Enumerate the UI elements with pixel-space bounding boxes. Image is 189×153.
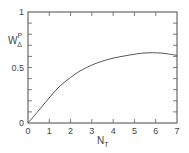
y-tick-label: 1 bbox=[19, 7, 24, 17]
ticks bbox=[28, 12, 177, 123]
x-tick-label: 2 bbox=[68, 126, 73, 136]
chart: 0123456700.51 WPΔ NT bbox=[0, 0, 189, 153]
x-axis-label-main: N bbox=[97, 135, 104, 146]
x-tick-label: 4 bbox=[111, 126, 116, 136]
x-tick-label: 7 bbox=[174, 126, 179, 136]
tick-labels: 0123456700.51 bbox=[11, 7, 179, 136]
y-tick-label: 0 bbox=[19, 118, 24, 128]
x-tick-label: 5 bbox=[132, 126, 137, 136]
series-curve bbox=[28, 53, 177, 123]
plot-frame bbox=[28, 12, 177, 123]
x-tick-label: 6 bbox=[153, 126, 158, 136]
x-tick-label: 0 bbox=[25, 126, 30, 136]
x-axis-label-sub: T bbox=[104, 141, 109, 148]
x-tick-label: 3 bbox=[89, 126, 94, 136]
x-axis-label: NT bbox=[97, 135, 109, 148]
y-tick-label: 0.5 bbox=[11, 63, 24, 73]
y-axis-label-sub: Δ bbox=[17, 41, 22, 48]
x-tick-label: 1 bbox=[47, 126, 52, 136]
y-axis-label-sup: P bbox=[17, 32, 22, 39]
y-axis-label: WPΔ bbox=[8, 32, 22, 48]
